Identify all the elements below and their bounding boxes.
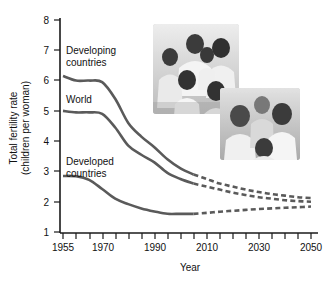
chart-canvas: 8 7 6 5 4 3 2 1 (0, 0, 328, 283)
y-tick-label-7: 7 (43, 45, 49, 56)
x-tick-label-1955: 1955 (52, 242, 75, 253)
series-1-projected-path (194, 184, 311, 202)
y-tick-label-5: 5 (43, 106, 49, 117)
y-tick-label-2: 2 (43, 197, 49, 208)
x-tick-label-2050: 2050 (300, 242, 323, 253)
y-axis-title-line2: (children per woman) (20, 81, 31, 175)
y-tick-label-1: 1 (43, 227, 49, 238)
x-axis-title: Year (180, 262, 201, 273)
series-label-developing-line2: countries (66, 57, 107, 68)
x-tick-label-1970: 1970 (92, 242, 115, 253)
x-tick-label-1990: 1990 (144, 242, 167, 253)
series-2-solid-path (63, 176, 194, 214)
series-curves (63, 76, 311, 214)
y-tick-label-8: 8 (43, 15, 49, 26)
series-0-projected-path (194, 174, 311, 198)
series-label-developed-line2: countries (66, 168, 107, 179)
y-tick-label-6: 6 (43, 75, 49, 86)
x-tick-label-2030: 2030 (248, 242, 271, 253)
x-tick-label-2010: 2010 (196, 242, 219, 253)
y-axis-title-line1: Total fertility rate (8, 91, 19, 164)
series-label-developing-line1: Developing (66, 45, 116, 56)
y-axis-ticks (54, 20, 60, 232)
series-2-projected-path (194, 207, 311, 214)
fertility-rate-chart: 8 7 6 5 4 3 2 1 (0, 0, 328, 283)
y-tick-label-4: 4 (43, 136, 49, 147)
series-label-world: World (66, 94, 92, 105)
series-label-developed-line1: Developed (66, 156, 114, 167)
x-axis-ticks (63, 233, 311, 239)
y-tick-label-3: 3 (43, 166, 49, 177)
